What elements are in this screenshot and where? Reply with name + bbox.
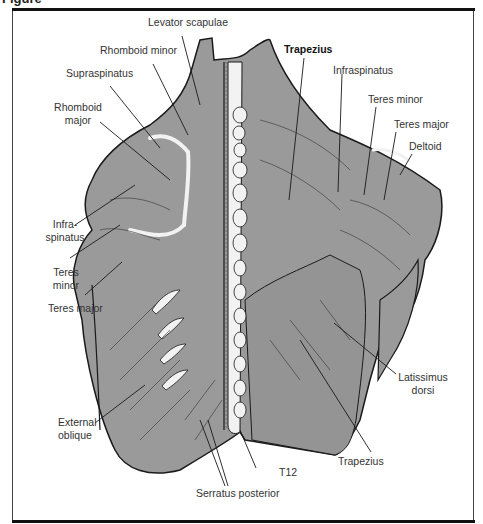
label-latissimus-dorsi-line1: Latissimus bbox=[395, 371, 451, 384]
label-infraspinatus-left: Infra- spinatus bbox=[40, 218, 90, 244]
label-rhomboid-major-line2: major bbox=[48, 114, 108, 127]
label-trapezius-top: Trapezius bbox=[284, 43, 332, 56]
label-trapezius-bottom: Trapezius bbox=[338, 455, 384, 468]
label-teres-minor-left-line2: minor bbox=[46, 279, 86, 292]
label-levator-scapulae: Levator scapulae bbox=[148, 16, 228, 29]
label-external-oblique: External oblique bbox=[58, 416, 97, 442]
label-supraspinatus: Supraspinatus bbox=[66, 67, 133, 80]
label-external-oblique-line1: External bbox=[58, 416, 97, 429]
label-teres-major-left: Teres major bbox=[48, 302, 103, 315]
label-latissimus-dorsi-line2: dorsi bbox=[395, 384, 451, 397]
label-teres-minor-right: Teres minor bbox=[368, 93, 423, 106]
label-rhomboid-minor: Rhomboid minor bbox=[100, 44, 177, 57]
label-teres-minor-left: Teres minor bbox=[46, 266, 86, 292]
label-latissimus-dorsi: Latissimus dorsi bbox=[395, 371, 451, 397]
label-teres-major-right: Teres major bbox=[394, 118, 449, 131]
label-deltoid: Deltoid bbox=[409, 140, 442, 153]
label-teres-minor-left-line1: Teres bbox=[46, 266, 86, 279]
label-infraspinatus-right: Infraspinatus bbox=[333, 64, 393, 77]
label-rhomboid-major: Rhomboid major bbox=[48, 101, 108, 127]
label-rhomboid-major-line1: Rhomboid bbox=[48, 101, 108, 114]
label-external-oblique-line2: oblique bbox=[58, 429, 97, 442]
label-infraspinatus-left-line2: spinatus bbox=[40, 231, 90, 244]
label-serratus-posterior: Serratus posterior bbox=[196, 487, 279, 500]
label-infraspinatus-left-line1: Infra- bbox=[40, 218, 90, 231]
label-t12: T12 bbox=[279, 466, 297, 479]
